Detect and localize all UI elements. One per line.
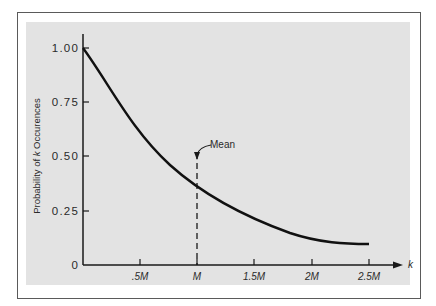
x-ticks	[140, 259, 369, 265]
y-tick-label: 0.50	[52, 150, 79, 162]
y-ticks	[83, 48, 89, 211]
mean-label: Mean	[210, 139, 235, 150]
y-tick-label: 0.25	[52, 205, 79, 217]
x-tick-label: .5M	[132, 271, 149, 282]
x-tick-label: 1.5M	[243, 271, 266, 282]
y-axis-title: Probability of k Occurences	[31, 98, 42, 214]
x-axis-label: k	[408, 259, 414, 270]
y-tick-label: 0	[71, 259, 79, 271]
x-tick-label: 2M	[304, 271, 320, 282]
y-tick-label: 0.75	[52, 96, 79, 108]
y-tick-label: 1.00	[52, 42, 79, 54]
x-axis-arrow-icon	[393, 262, 403, 269]
x-tick-label: 2.5M	[357, 271, 381, 282]
mean-arrow-icon	[194, 152, 200, 160]
chart-svg: 1.00 0.75 0.50 0.25 0 .5M M 1.5M 2M 2.5M…	[0, 0, 436, 306]
x-tick-label: M	[193, 271, 202, 282]
